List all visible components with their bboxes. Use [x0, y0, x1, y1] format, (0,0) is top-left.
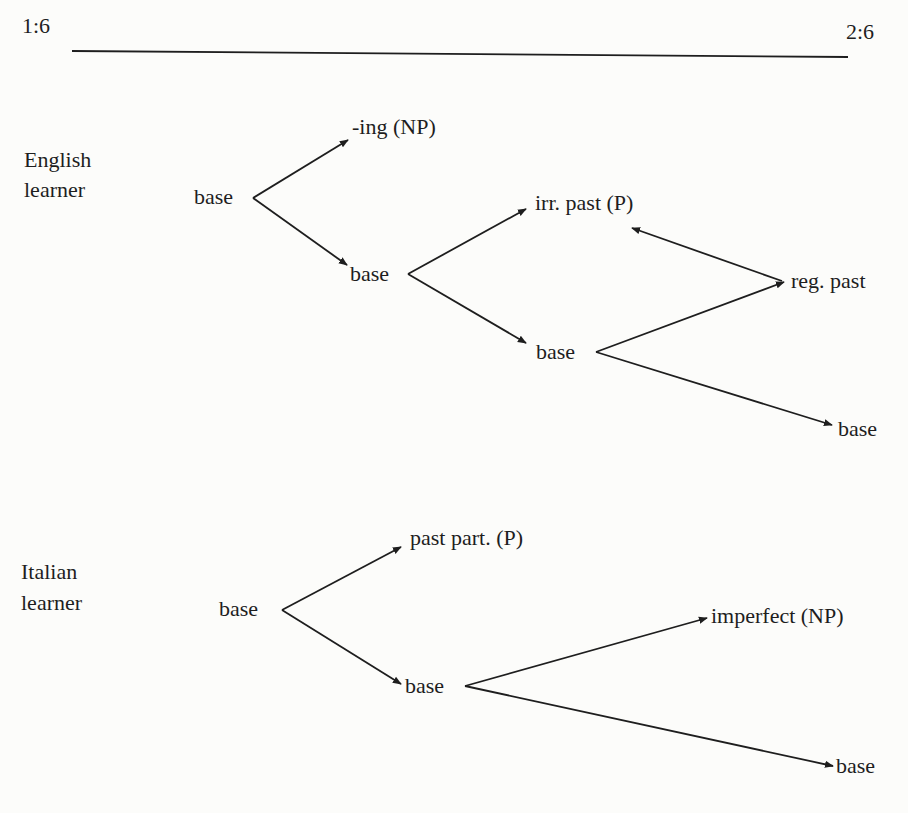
- node-reg-past: reg. past: [791, 268, 866, 294]
- edge-base-to-base-2: [408, 274, 526, 343]
- node-irr-past-p: irr. past (P): [535, 190, 633, 216]
- group-label-line1: Italian: [21, 559, 77, 585]
- group-label-line2: learner: [24, 177, 85, 203]
- node-imperfect-np: imperfect (NP): [711, 603, 844, 629]
- edge-reg-past-to-irr-past: [632, 228, 782, 281]
- diagram-edges: [0, 0, 908, 813]
- edge-base-to-ing: [253, 140, 348, 198]
- edge-it-base-to-past-part: [282, 547, 401, 610]
- group-label-line1: English: [24, 147, 91, 173]
- edge-base-to-reg-past: [596, 282, 784, 352]
- edge-it-base-to-base-2: [465, 686, 833, 766]
- node-base: base: [838, 416, 877, 442]
- group-label-line2: learner: [21, 590, 82, 616]
- edge-base-to-irr-past: [408, 209, 526, 274]
- edge-base-to-base-3: [596, 352, 832, 425]
- node-ing-np: -ing (NP): [352, 114, 436, 140]
- node-base: base: [405, 673, 444, 699]
- node-base: base: [194, 184, 233, 210]
- timeline-line: [72, 51, 848, 57]
- edge-it-base-to-base: [282, 610, 401, 684]
- node-past-part-p: past part. (P): [410, 525, 523, 551]
- node-base: base: [350, 261, 389, 287]
- node-base: base: [219, 596, 258, 622]
- edge-base-to-base: [253, 198, 347, 265]
- edge-it-base-to-imperfect: [465, 618, 707, 686]
- node-base: base: [536, 339, 575, 365]
- node-base: base: [836, 753, 875, 779]
